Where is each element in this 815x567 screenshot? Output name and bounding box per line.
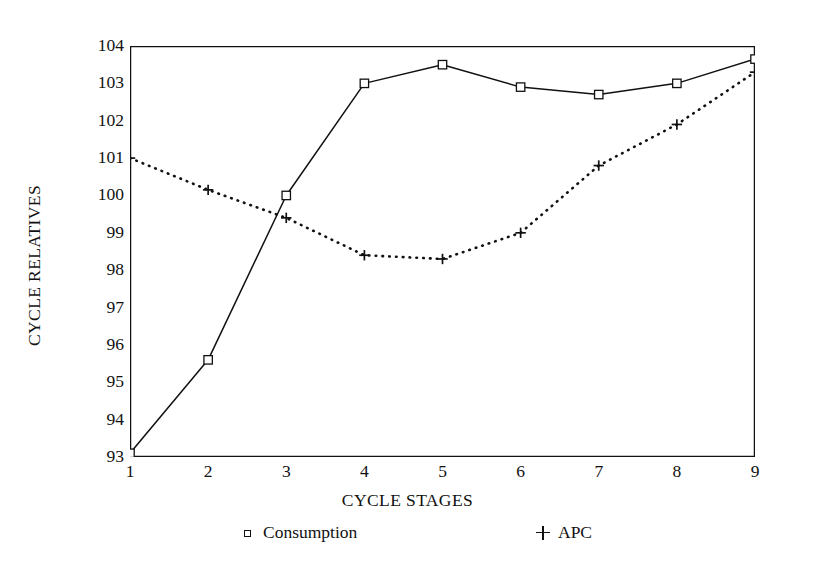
x-axis-tick-label: 4 bbox=[349, 463, 379, 481]
open-square-marker bbox=[751, 55, 755, 63]
legend-item-consumption: Consumption bbox=[241, 522, 357, 543]
open-square-marker bbox=[595, 90, 603, 98]
x-axis-tick-label: 6 bbox=[506, 463, 536, 481]
data-point-consumption-1 bbox=[130, 449, 134, 457]
x-axis-tick-label: 9 bbox=[740, 463, 770, 481]
y-axis-tick-label: 104 bbox=[84, 37, 124, 55]
legend-label-consumption: Consumption bbox=[263, 522, 357, 543]
plot-frame bbox=[131, 47, 755, 457]
legend-item-apc: APC bbox=[536, 522, 592, 543]
y-axis-tick-label: 94 bbox=[84, 411, 124, 429]
x-axis-tick-label: 7 bbox=[584, 463, 614, 481]
open-square-marker bbox=[516, 83, 524, 91]
x-axis-title: CYCLE STAGES bbox=[0, 490, 815, 511]
legend-label-apc: APC bbox=[558, 522, 592, 543]
x-axis-tick-label: 8 bbox=[662, 463, 692, 481]
data-point-apc-8 bbox=[672, 119, 682, 129]
open-square-marker bbox=[438, 60, 446, 68]
y-axis-tick-label: 99 bbox=[84, 224, 124, 242]
plot-area bbox=[130, 46, 755, 457]
data-point-apc-7 bbox=[594, 160, 604, 170]
open-square-marker bbox=[204, 356, 212, 364]
series-line-apc bbox=[130, 72, 755, 259]
data-point-apc-6 bbox=[515, 228, 525, 238]
data-point-consumption-3 bbox=[282, 191, 290, 199]
plot-canvas bbox=[130, 46, 755, 457]
data-point-consumption-9 bbox=[751, 55, 755, 63]
chart-legend: Consumption APC bbox=[0, 522, 815, 548]
open-square-marker bbox=[130, 449, 134, 457]
open-square-marker bbox=[673, 79, 681, 87]
y-axis-title-text: CYCLE RELATIVES bbox=[25, 184, 46, 345]
data-point-consumption-7 bbox=[595, 90, 603, 98]
x-axis-tick-label: 3 bbox=[271, 463, 301, 481]
y-axis-tick-label: 98 bbox=[84, 261, 124, 279]
data-point-apc-3 bbox=[281, 213, 291, 223]
open-square-marker bbox=[282, 191, 290, 199]
y-axis-tick-label: 100 bbox=[84, 186, 124, 204]
data-point-apc-1 bbox=[130, 153, 135, 163]
open-square-marker-icon bbox=[241, 526, 255, 540]
y-axis-tick-label: 95 bbox=[84, 373, 124, 391]
y-axis-tick-label: 101 bbox=[84, 149, 124, 167]
open-square-marker bbox=[360, 79, 368, 87]
data-point-apc-5 bbox=[437, 254, 447, 264]
y-axis-title: CYCLE RELATIVES bbox=[12, 120, 58, 410]
data-point-consumption-6 bbox=[516, 83, 524, 91]
x-axis-tick-labels: 123456789 bbox=[0, 463, 815, 491]
data-point-consumption-5 bbox=[438, 60, 446, 68]
plus-marker-icon bbox=[536, 526, 550, 540]
data-point-apc-4 bbox=[359, 250, 369, 260]
x-axis-title-text: CYCLE STAGES bbox=[342, 490, 473, 510]
data-point-consumption-4 bbox=[360, 79, 368, 87]
x-axis-tick-label: 1 bbox=[115, 463, 145, 481]
cycle-relatives-chart: CYCLE RELATIVES 939495969798991001011021… bbox=[0, 0, 815, 567]
y-axis-tick-label: 97 bbox=[84, 299, 124, 317]
data-point-apc-2 bbox=[203, 185, 213, 195]
y-axis-tick-label: 96 bbox=[84, 336, 124, 354]
y-axis-tick-label: 102 bbox=[84, 112, 124, 130]
data-point-consumption-8 bbox=[673, 79, 681, 87]
y-axis-tick-label: 103 bbox=[84, 74, 124, 92]
x-axis-tick-label: 2 bbox=[193, 463, 223, 481]
x-axis-tick-label: 5 bbox=[428, 463, 458, 481]
data-point-consumption-2 bbox=[204, 356, 212, 364]
